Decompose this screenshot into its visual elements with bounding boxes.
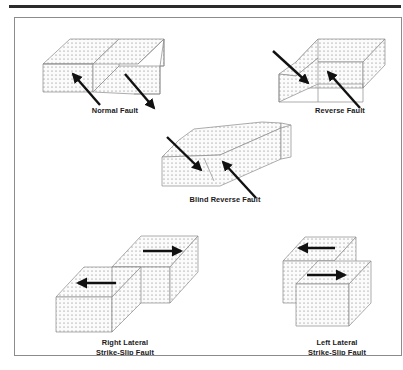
- top-horizontal-rule: [9, 5, 401, 8]
- caption-right-lateral-strike-slip-fault: Right Lateral Strike-Slip Fault: [96, 338, 154, 356]
- caption-reverse-fault: Reverse Fault: [315, 106, 365, 116]
- caption-normal-fault: Normal Fault: [92, 106, 138, 116]
- ll-near-block-front-face: [296, 284, 349, 326]
- left-lateral-strike-slip-block-diagram: [283, 237, 371, 326]
- figure-page: Normal Fault Reverse Fault Blind Reverse…: [0, 0, 403, 370]
- caption-blind-reverse-fault: Blind Reverse Fault: [190, 195, 261, 205]
- blind-reverse-fault-block-diagram: [162, 122, 291, 198]
- right-lateral-strike-slip-block-diagram: [56, 236, 198, 332]
- fault-diagrams-svg: [15, 18, 401, 355]
- blind-right-side-face: [281, 123, 291, 159]
- rl-near-block-front-face: [56, 297, 112, 332]
- figure-frame: Normal Fault Reverse Fault Blind Reverse…: [14, 17, 402, 356]
- reverse-lower-base-edge: [318, 88, 363, 102]
- reverse-fault-block-diagram: [273, 39, 385, 108]
- normal-right-block-side-face: [160, 39, 164, 66]
- caption-left-lateral-strike-slip-fault: Left Lateral Strike-Slip Fault: [308, 338, 366, 356]
- normal-fault-block-diagram: [43, 39, 164, 108]
